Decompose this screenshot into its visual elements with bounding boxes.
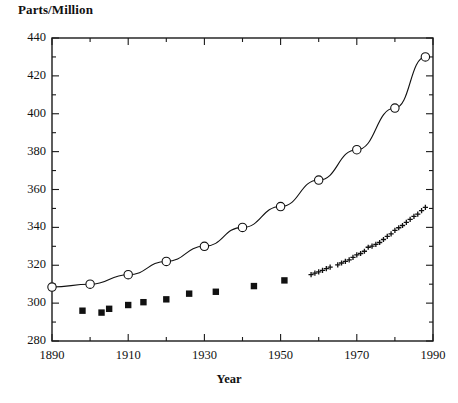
data-point-open-circle: [353, 146, 361, 154]
series-projected-curve-open-circles: [48, 53, 430, 291]
data-point-plus: [404, 220, 409, 225]
x-tick-label: 1930: [181, 348, 227, 363]
data-point-plus: [419, 208, 424, 213]
x-tick-label: 1950: [258, 348, 304, 363]
x-tick-label: 1890: [29, 348, 75, 363]
x-axis-label: Year: [0, 372, 458, 387]
series-ice-core-filled-squares: [79, 277, 287, 316]
y-tick-label: 440: [12, 30, 46, 45]
data-point-open-circle: [162, 257, 170, 265]
data-point-plus: [408, 217, 413, 222]
axis-ticks: [52, 38, 433, 341]
series-line: [52, 57, 425, 287]
y-tick-label: 380: [12, 144, 46, 159]
series-mauna-loa-plus-markers: [308, 205, 428, 278]
plot-area: [0, 0, 458, 403]
data-point-filled-square: [79, 308, 85, 314]
data-point-plus: [385, 234, 390, 239]
chart-figure: Parts/Million Year 280300320340360380400…: [0, 0, 458, 403]
data-point-filled-square: [98, 309, 104, 315]
y-axis-label: Parts/Million: [18, 2, 93, 18]
data-point-filled-square: [163, 296, 169, 302]
y-tick-label: 340: [12, 219, 46, 234]
data-point-filled-square: [213, 289, 219, 295]
x-tick-label: 1910: [105, 348, 151, 363]
data-point-plus: [381, 237, 386, 242]
data-point-filled-square: [106, 306, 112, 312]
axis-frame: [52, 38, 433, 341]
data-point-filled-square: [281, 277, 287, 283]
data-point-filled-square: [251, 283, 257, 289]
data-point-filled-square: [186, 290, 192, 296]
y-tick-label: 360: [12, 182, 46, 197]
data-point-plus: [388, 231, 393, 236]
data-point-plus: [392, 228, 397, 233]
y-tick-label: 420: [12, 68, 46, 83]
data-point-open-circle: [48, 283, 56, 291]
data-point-filled-square: [125, 302, 131, 308]
data-point-plus: [366, 245, 371, 250]
x-tick-label: 1990: [410, 348, 456, 363]
data-series-group: [48, 53, 430, 316]
data-point-open-circle: [276, 202, 284, 210]
data-point-open-circle: [86, 280, 94, 288]
y-tick-label: 320: [12, 257, 46, 272]
data-point-open-circle: [421, 53, 429, 61]
data-point-filled-square: [140, 299, 146, 305]
data-point-open-circle: [200, 242, 208, 250]
data-point-open-circle: [391, 104, 399, 112]
y-tick-label: 280: [12, 333, 46, 348]
data-point-open-circle: [238, 223, 246, 231]
y-tick-label: 400: [12, 106, 46, 121]
data-point-plus: [423, 205, 428, 210]
data-point-open-circle: [315, 176, 323, 184]
y-tick-label: 300: [12, 295, 46, 310]
data-point-open-circle: [124, 271, 132, 279]
x-tick-label: 1970: [334, 348, 380, 363]
